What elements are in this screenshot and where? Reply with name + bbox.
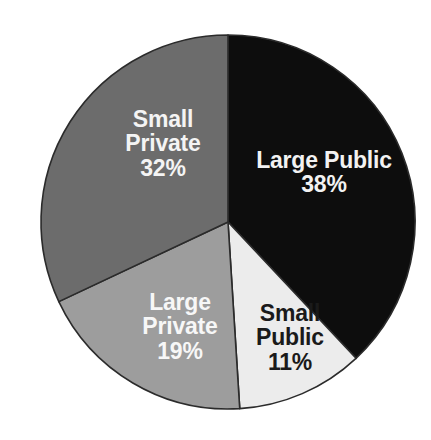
pie-slices-group xyxy=(41,35,415,409)
pie-chart-svg xyxy=(0,0,431,440)
pie-chart: Large Public 38% Small Private 32% Large… xyxy=(0,0,431,440)
